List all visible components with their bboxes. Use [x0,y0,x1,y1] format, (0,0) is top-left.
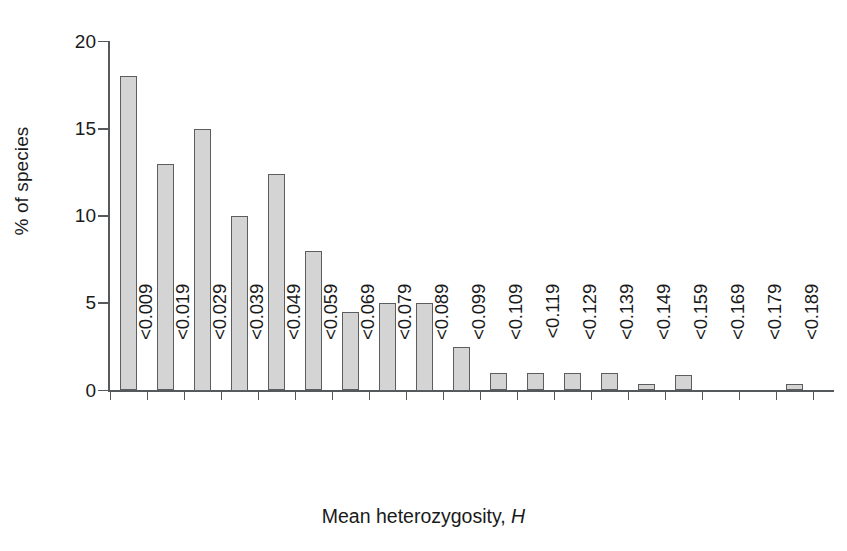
x-tick-label: <0.099 [470,284,489,404]
y-tick-mark [98,41,109,43]
bar [564,373,582,390]
bar [601,373,619,390]
x-tick-label: <0.139 [618,284,637,404]
y-tick-mark [98,390,109,392]
x-tick-label: <0.119 [544,284,563,404]
x-tick-label: <0.129 [581,284,600,404]
histogram-figure: % of species 05101520 <0.009<0.019<0.029… [0,0,847,551]
x-tick-label: <0.069 [359,284,378,404]
bar [453,347,471,391]
x-tick-label: <0.049 [285,284,304,404]
y-tick-mark [98,215,109,217]
y-tick-label: 20 [36,32,96,51]
x-tick-label: <0.189 [803,284,822,404]
y-tick-mark [98,302,109,304]
bar [268,174,286,390]
x-tick-label: <0.109 [507,284,526,404]
bar [120,76,138,390]
x-tick-label: <0.009 [137,284,156,404]
bar [786,384,804,391]
x-tick-label: <0.089 [433,284,452,404]
y-tick-mark [98,128,109,130]
x-tick-label: <0.159 [692,284,711,404]
y-tick-label: 5 [36,293,96,312]
x-tick-label: <0.019 [174,284,193,404]
x-tick-label: <0.179 [766,284,785,404]
x-axis-title-symbol: H [511,505,525,527]
x-tick-label: <0.029 [211,284,230,404]
bar [527,373,545,390]
x-tick-label: <0.079 [396,284,415,404]
bar [490,373,508,390]
y-tick-label: 0 [36,381,96,400]
bar [638,384,656,391]
bar [194,129,212,391]
x-tick-label: <0.149 [655,284,674,404]
y-axis-title: % of species [11,101,33,261]
x-tick-label: <0.039 [248,284,267,404]
x-tick-mark [110,391,111,400]
bar [157,164,175,391]
y-tick-label: 15 [36,119,96,138]
y-tick-label: 10 [36,206,96,225]
x-tick-label: <0.169 [729,284,748,404]
bar [675,375,693,391]
x-tick-label: <0.059 [322,284,341,404]
x-axis-title-text: Mean heterozygosity, [322,505,506,527]
x-axis-title: Mean heterozygosity, H [0,505,847,528]
